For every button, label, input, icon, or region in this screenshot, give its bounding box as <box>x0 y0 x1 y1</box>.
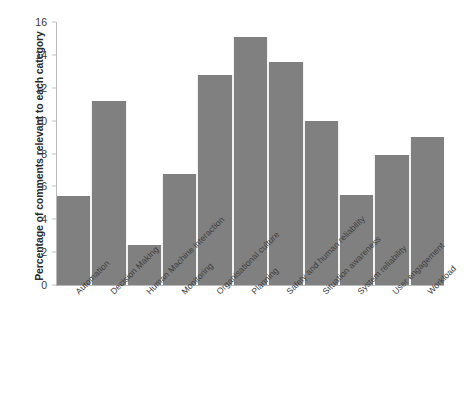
bar-chart: Percentage of comments relevant to each … <box>0 0 467 402</box>
x-label-slot: Workload <box>408 286 443 402</box>
x-axis-labels: AutomationDecision MakingHuman Machine i… <box>56 286 443 402</box>
y-axis-ticks: 0246810121416 <box>0 0 56 402</box>
x-label-slot: Decision Making <box>91 286 126 402</box>
bar-decision-making <box>91 101 126 285</box>
bar-automation <box>57 196 91 285</box>
y-tick-label: 6 <box>7 181 47 192</box>
plot-area <box>56 22 444 286</box>
bar-safety-and-human-reliability <box>268 62 303 285</box>
x-label-slot: Planning <box>232 286 267 402</box>
bars-layer <box>57 22 444 285</box>
x-label-slot: User engagement <box>373 286 408 402</box>
x-label-slot: System reliability <box>337 286 372 402</box>
x-label-slot: Organisational culture <box>197 286 232 402</box>
y-tick-label: 2 <box>7 247 47 258</box>
x-label-slot: Situation awareness <box>302 286 337 402</box>
x-label-slot: Monitoring <box>162 286 197 402</box>
y-tick-label: 12 <box>7 83 47 94</box>
y-tick-label: 14 <box>7 50 47 61</box>
x-label-slot: Human Machine interaction <box>126 286 161 402</box>
y-tick-label: 10 <box>7 115 47 126</box>
x-label-slot: Safety and human reliability <box>267 286 302 402</box>
y-tick-label: 4 <box>7 214 47 225</box>
y-tick-label: 16 <box>7 17 47 28</box>
bar-organisational-culture <box>197 75 232 285</box>
y-tick-label: 0 <box>7 280 47 291</box>
y-tick-label: 8 <box>7 148 47 159</box>
x-label-slot: Automation <box>56 286 91 402</box>
